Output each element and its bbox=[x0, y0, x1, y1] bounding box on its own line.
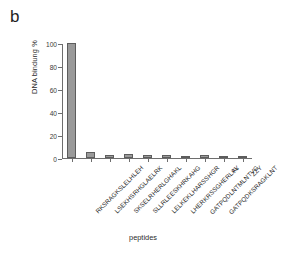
x-axis-tick-label: ZZY bbox=[249, 164, 263, 178]
bar bbox=[143, 155, 152, 158]
y-axis-tick-label: 40 bbox=[50, 110, 57, 117]
x-axis-tick bbox=[205, 159, 206, 162]
panel-label: b bbox=[10, 8, 20, 25]
bar bbox=[181, 156, 190, 158]
x-axis-tick bbox=[91, 159, 92, 162]
y-axis-tick bbox=[58, 67, 62, 68]
x-axis-tick bbox=[72, 159, 73, 162]
y-axis-tick-label: 20 bbox=[50, 133, 57, 140]
plot-area: 020406080100 bbox=[62, 44, 252, 159]
y-axis-tick-label: 60 bbox=[50, 87, 57, 94]
bar bbox=[86, 152, 95, 158]
y-axis-tick-label: 100 bbox=[46, 41, 57, 48]
x-axis-tick bbox=[148, 159, 149, 162]
y-axis-line bbox=[62, 44, 63, 159]
x-axis-title: peptides bbox=[0, 233, 286, 242]
x-axis-tick-label: LELKEKLHARSSHGR bbox=[169, 164, 220, 215]
x-axis-tick-label: GATPQDLNTMLNTVG bbox=[208, 164, 259, 215]
bar bbox=[162, 155, 171, 158]
x-axis-tick-label: RKSRAGKSLELHLEH bbox=[93, 164, 144, 215]
bar bbox=[238, 156, 247, 158]
y-axis-tick bbox=[58, 159, 62, 160]
x-axis-tick bbox=[129, 159, 130, 162]
bar bbox=[124, 154, 133, 158]
y-axis-tick bbox=[58, 136, 62, 137]
bar bbox=[200, 155, 209, 158]
x-axis-tick bbox=[186, 159, 187, 162]
y-axis-tick bbox=[58, 90, 62, 91]
bar bbox=[219, 156, 228, 158]
y-axis-title-wrapper: DNA bindung % bbox=[23, 21, 37, 113]
y-axis-tick bbox=[58, 44, 62, 45]
x-axis-tick-label: GATPQDKSRAGKLNT bbox=[227, 164, 278, 215]
x-axis-tick bbox=[243, 159, 244, 162]
y-axis-tick bbox=[58, 113, 62, 114]
figure-panel-b: b DNA bindung % 020406080100 RKSRAGKSLEL… bbox=[0, 0, 286, 260]
y-axis-tick-label: 0 bbox=[53, 156, 57, 163]
x-axis-tick-label: SKSELRHERLGHAKL bbox=[131, 164, 182, 215]
x-axis-tick bbox=[167, 159, 168, 162]
y-axis-tick-label: 80 bbox=[50, 64, 57, 71]
x-axis-tick-label: LHERKRSSGHERLAL bbox=[188, 164, 239, 215]
x-axis-tick-label: YY bbox=[229, 164, 240, 175]
x-axis-tick-label: SLLRLEESKHRKAHG bbox=[150, 164, 201, 215]
bar bbox=[67, 43, 76, 158]
x-axis-tick bbox=[224, 159, 225, 162]
x-axis-tick-label: LSEKHSRHGLAELRK bbox=[112, 164, 163, 215]
x-axis-tick bbox=[110, 159, 111, 162]
bar bbox=[105, 155, 114, 158]
y-axis-title: DNA bindung % bbox=[30, 40, 39, 94]
